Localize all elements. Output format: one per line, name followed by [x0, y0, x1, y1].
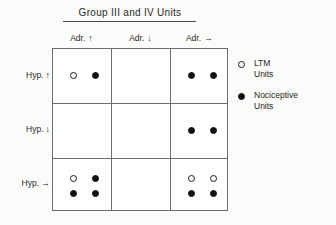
down-arrow-icon: ↓ [147, 34, 152, 43]
grid-cell-r1-c2 [112, 49, 170, 102]
open-circle-icon [188, 175, 197, 184]
down-arrow-icon: ↓ [46, 125, 51, 134]
filled-circle-icon [210, 190, 219, 199]
up-arrow-icon: ↑ [88, 34, 93, 43]
grid-cell-r3-c1 [53, 159, 111, 212]
open-circle-icon [210, 175, 219, 184]
legend-label-line1: Nociceptive [254, 90, 298, 100]
page-title: Group III and IV Units [60, 7, 200, 18]
row-header-hyp-down: Hyp.↓ [2, 124, 50, 134]
right-arrow-icon: → [41, 179, 50, 188]
column-header-label: Adr. [186, 33, 201, 43]
legend-filled-circle-icon [238, 93, 248, 103]
data-grid [52, 48, 228, 211]
column-header-label: Adr. [129, 33, 144, 43]
row-header-label: Hyp. [26, 124, 43, 134]
right-arrow-icon: → [204, 34, 213, 43]
grid-cell-r2-c2 [112, 104, 170, 157]
row-header-hyp-up: Hyp.↑ [2, 70, 50, 80]
filled-circle-icon [188, 127, 197, 136]
legend-label-line2: Units [254, 69, 273, 80]
legend-label-line1: LTM [254, 58, 270, 68]
grid-cell-r2-c3 [171, 104, 229, 157]
filled-circle-icon [92, 190, 101, 199]
title-underline [63, 21, 196, 22]
open-circle-icon [70, 72, 79, 81]
row-header-hyp-right: Hyp.→ [2, 178, 50, 188]
legend-label-line2: Units [254, 101, 298, 112]
filled-circle-icon [92, 175, 101, 184]
figure-group-iii-iv-units: Group III and IV Units Adr.↑ Adr.↓ Adr.→… [0, 0, 336, 225]
column-header-adr-down: Adr.↓ [111, 33, 170, 43]
filled-circle-icon [70, 190, 79, 199]
filled-circle-icon [210, 72, 219, 81]
row-header-label: Hyp. [26, 70, 43, 80]
filled-circle-icon [188, 190, 197, 199]
grid-cell-r3-c3 [171, 159, 229, 212]
filled-circle-icon [210, 127, 219, 136]
filled-circle-icon [92, 72, 101, 81]
column-header-adr-up: Adr.↑ [52, 33, 111, 43]
legend-item-label: LTM Units [254, 58, 273, 79]
up-arrow-icon: ↑ [46, 71, 51, 80]
row-header-label: Hyp. [22, 178, 39, 188]
filled-circle-icon [188, 72, 197, 81]
grid-cell-r2-c1 [53, 104, 111, 157]
column-header-adr-right: Adr.→ [170, 33, 229, 43]
grid-cell-r1-c3 [171, 49, 229, 102]
grid-cell-r3-c2 [112, 159, 170, 212]
column-header-label: Adr. [70, 33, 85, 43]
legend-item-label: Nociceptive Units [254, 90, 298, 111]
legend-open-circle-icon [238, 61, 248, 71]
open-circle-icon [70, 175, 79, 184]
grid-cell-r1-c1 [53, 49, 111, 102]
